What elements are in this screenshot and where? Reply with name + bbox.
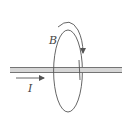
magnetic-field-diagram: B I bbox=[0, 0, 133, 127]
field-label: B bbox=[48, 34, 57, 47]
straight-wire bbox=[10, 68, 122, 73]
diagram-canvas: B I bbox=[0, 0, 133, 127]
field-direction-arrow bbox=[58, 22, 83, 53]
current-label: I bbox=[27, 82, 33, 95]
